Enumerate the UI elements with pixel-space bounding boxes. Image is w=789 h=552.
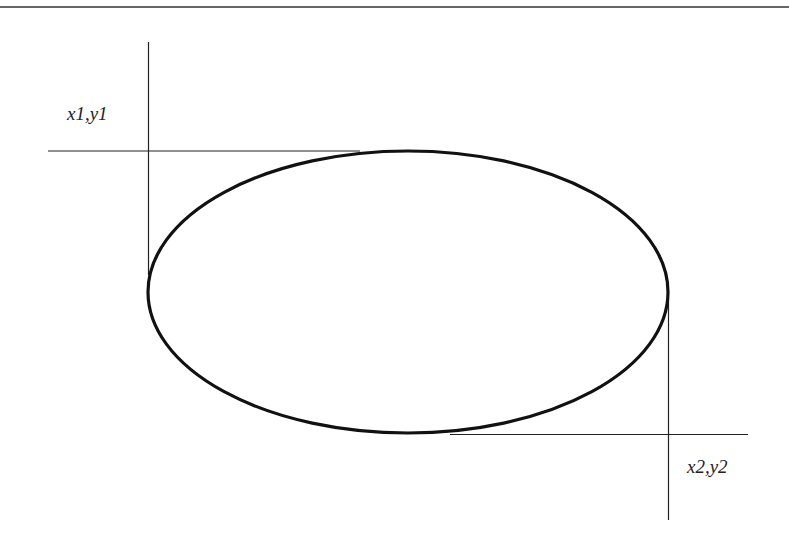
corner-label-x1-y1: x1,y1 [67,104,108,123]
ellipse-shape [148,151,668,433]
ellipse-diagram [0,0,789,552]
corner-label-x2-y2: x2,y2 [687,457,728,476]
